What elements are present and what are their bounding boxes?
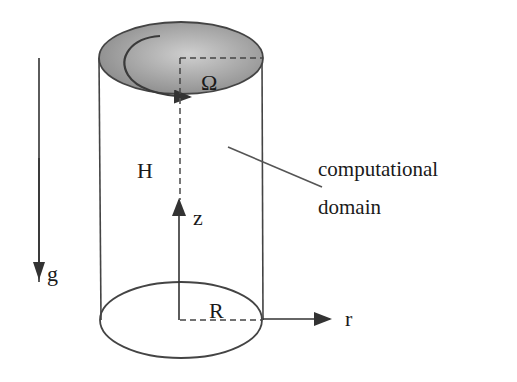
rotating-lid: Ω xyxy=(99,22,263,98)
domain-leader-line xyxy=(228,147,322,187)
height-label: H xyxy=(137,158,153,183)
radius-label: R xyxy=(209,298,224,323)
gravity-label: g xyxy=(47,261,58,286)
cylinder-diagram: Ω H z R r g computational domain xyxy=(0,0,517,382)
domain-label-line1: computational xyxy=(318,157,438,181)
omega-label: Ω xyxy=(201,70,217,95)
z-axis-label: z xyxy=(193,205,203,230)
domain-label-line2: domain xyxy=(318,195,381,219)
r-axis-label: r xyxy=(345,306,353,331)
gravity-arrow-head-icon xyxy=(33,262,45,280)
